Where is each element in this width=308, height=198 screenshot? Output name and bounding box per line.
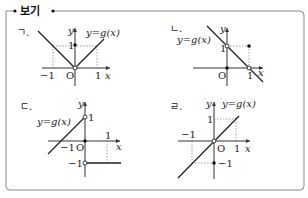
tick-yneg1: −1 [218, 158, 233, 169]
x-axis-label: x [258, 67, 264, 78]
open-point-yneg1 [83, 161, 87, 165]
panel-d: ㄹ. y y=g(x) 1 −1 O 1 x −1 [170, 98, 256, 179]
open-point-y1 [83, 115, 87, 119]
header-dot-right [51, 9, 54, 12]
tick-x1: 1 [234, 143, 240, 154]
header-dot-left [13, 9, 16, 12]
tick-yneg1: −1 [68, 158, 83, 169]
tick-y1: 1 [88, 112, 94, 123]
tick-y1: 1 [68, 40, 74, 51]
box-border [6, 11, 304, 190]
tick-xneg1: −1 [40, 70, 55, 81]
panel-label: ㄴ. [170, 23, 182, 34]
closed-point [212, 161, 216, 165]
open-point-origin [212, 139, 216, 143]
tick-x1: 1 [105, 130, 111, 141]
tick-x1: 1 [95, 70, 101, 81]
graph-curve [207, 26, 263, 82]
tick-xneg1: −1 [60, 142, 75, 153]
function-label: y=g(x) [36, 116, 71, 127]
panel-a: ㄱ. y y=g(x) 1 −1 O 1 x [17, 25, 120, 86]
origin-label: O [217, 143, 225, 154]
function-label: y=g(x) [176, 34, 211, 45]
x-axis-label: x [116, 141, 122, 152]
tick-xneg1: −1 [181, 129, 196, 140]
tick-x1: 1 [247, 70, 253, 81]
panel-label: ㄹ. [170, 101, 182, 112]
y-axis-label: y [219, 23, 226, 34]
origin-label: O [76, 142, 84, 153]
closed-point [247, 44, 251, 48]
origin-label: O [66, 70, 74, 81]
panel-label: ㄱ. [17, 27, 29, 38]
header-title: 보기 [20, 4, 40, 18]
y-axis-arrow-icon [212, 102, 216, 106]
tick-y1: 1 [220, 43, 226, 54]
x-axis-label: x [105, 70, 111, 81]
choices-figure: 보기 ㄱ. y y=g(x) 1 −1 O 1 x ㄴ. y [0, 0, 308, 198]
choices-box: 보기 [6, 4, 304, 190]
panel-c: ㄷ. y y=g(x) 1 −1 O 1 x −1 [20, 98, 122, 177]
function-label: y=g(x) [221, 98, 256, 109]
panel-label: ㄷ. [20, 101, 32, 112]
y-axis-label: y [205, 98, 212, 109]
y-axis-label: y [67, 25, 74, 36]
y-axis-label: y [77, 98, 84, 109]
tick-y1: 1 [207, 114, 213, 125]
panel-b: ㄴ. y y=g(x) 1 O 1 x [170, 23, 264, 86]
origin-label: O [218, 70, 226, 81]
function-label: y=g(x) [85, 27, 120, 38]
x-axis-label: x [245, 143, 251, 154]
